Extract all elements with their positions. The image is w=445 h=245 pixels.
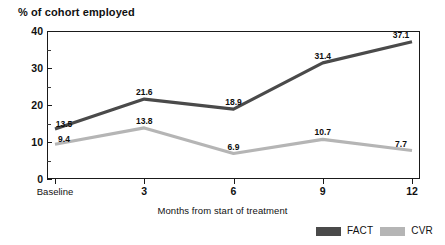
data-label-fact: 37.1 (393, 31, 410, 40)
x-axis-tick (144, 179, 145, 184)
x-axis-title: Months from start of treatment (0, 205, 445, 216)
x-axis-tick-label: 6 (231, 186, 237, 197)
y-axis-tick-label: 10 (19, 137, 43, 148)
data-label-fact: 13.5 (56, 120, 73, 129)
y-axis-tick-labels: 010203040 (15, 31, 43, 179)
x-axis-tick (234, 179, 235, 184)
chart-container: % of cohort employed 010203040 13.521.61… (0, 0, 445, 245)
data-label-cvr: 7.7 (395, 140, 407, 149)
chart-legend: FACTCVR (316, 224, 433, 238)
x-axis-tick-label: 3 (141, 186, 147, 197)
x-axis-tick-labels: Baseline36912 (0, 186, 445, 202)
x-axis-tick-label: Baseline (37, 187, 73, 197)
data-label-cvr: 9.4 (58, 135, 70, 144)
x-axis-tick-label: 9 (320, 186, 326, 197)
x-axis-tick (412, 179, 413, 184)
data-label-cvr: 6.9 (228, 143, 240, 152)
legend-swatch-cvr (380, 227, 405, 236)
data-label-fact: 18.9 (225, 98, 242, 107)
y-axis-tick-label: 40 (19, 26, 43, 37)
data-label-cvr: 10.7 (314, 128, 331, 137)
x-axis-tick (323, 179, 324, 184)
x-axis-tick-label: 12 (406, 186, 418, 197)
y-axis-tick-label: 20 (19, 100, 43, 111)
legend-label: CVR (411, 226, 433, 236)
data-point-labels: 13.521.618.931.437.19.413.86.910.77.7 (47, 31, 420, 179)
x-axis-tick (55, 179, 56, 184)
chart-title: % of cohort employed (18, 6, 135, 18)
legend-label: FACT (347, 226, 373, 236)
data-label-fact: 21.6 (136, 88, 153, 97)
data-label-fact: 31.4 (314, 52, 331, 61)
y-axis-tick-label: 0 (19, 174, 43, 185)
legend-item-fact[interactable]: FACT (316, 226, 373, 236)
legend-item-cvr[interactable]: CVR (380, 226, 433, 236)
data-label-cvr: 13.8 (136, 117, 153, 126)
y-axis-tick-label: 30 (19, 63, 43, 74)
legend-swatch-fact (316, 227, 341, 236)
